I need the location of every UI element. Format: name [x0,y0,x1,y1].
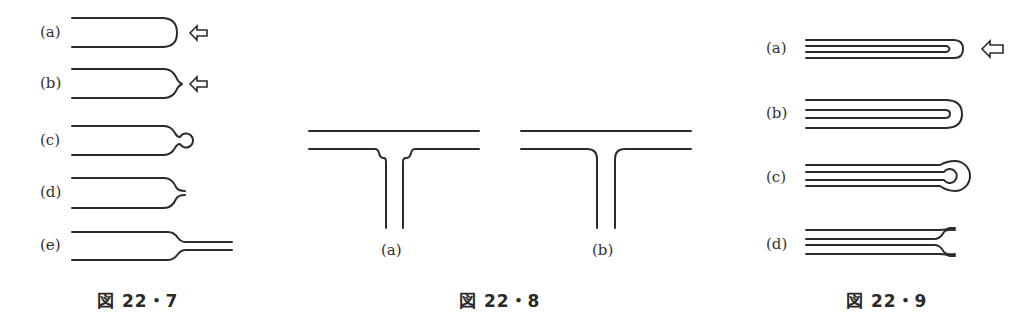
tube-22-9-c-inner [806,169,957,183]
figure-22-8 [309,131,691,228]
tube-22-9-a-inner [806,46,950,52]
label-22-8-a: (a) [381,243,402,258]
label-22-8-b: (b) [592,243,613,258]
t-joint-b-right [615,149,691,228]
tube-22-9-d-top [806,228,955,230]
t-joint-a-right [403,149,479,228]
tube-22-7-d-lower [72,195,185,208]
arrow-icon [190,77,207,91]
caption-22-9: 図 22・9 [846,293,927,310]
tube-22-7-d [72,178,185,191]
tube-22-9-d-mid2 [806,245,955,254]
figure-22-9 [806,40,1003,256]
label-22-7-c: (c) [40,133,60,148]
label-22-7-b: (b) [40,76,61,91]
tube-22-7-c [72,126,193,155]
tube-22-9-b-outer [806,100,962,128]
tube-22-7-b [72,69,182,98]
tube-22-9-b-inner [806,110,950,118]
label-22-7-a: (a) [40,25,61,40]
caption-22-8: 図 22・8 [459,293,540,310]
tube-22-9-c-outer [806,161,970,191]
tube-22-7-e [72,232,232,242]
tube-22-7-a [72,18,177,47]
label-22-9-a: (a) [766,41,787,56]
label-22-7-e: (e) [40,238,61,253]
caption-22-7: 図 22・7 [97,293,178,310]
label-22-9-c: (c) [766,170,786,185]
figure-22-7 [72,18,232,260]
tube-22-9-d-bottom [806,254,955,256]
diagram-canvas [0,0,1034,326]
arrow-icon [190,26,207,40]
label-22-9-d: (d) [766,237,787,252]
arrow-icon [982,41,1003,57]
label-22-7-d: (d) [40,185,61,200]
tube-22-9-a-outer [806,40,963,58]
label-22-9-b: (b) [766,106,787,121]
tube-22-7-e-lower [72,250,232,260]
t-joint-b-left [521,149,597,228]
t-joint-a-left [309,149,386,228]
tube-22-9-d-mid1 [806,230,955,239]
